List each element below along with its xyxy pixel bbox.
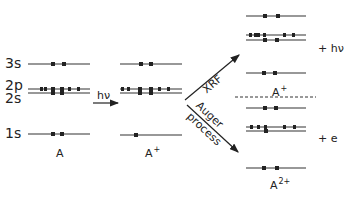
state-aplus-electrons <box>121 62 170 137</box>
state-label-a: A <box>56 145 65 160</box>
state-xrf-levels <box>246 16 306 73</box>
state-label-auger: A2+ <box>270 177 290 192</box>
energy-level-diagram <box>0 0 349 200</box>
state-aplus-levels <box>120 64 182 135</box>
state-a-electrons <box>40 62 80 136</box>
state-auger-levels <box>246 108 306 168</box>
emitted-electron-label: + e <box>318 132 337 145</box>
state-auger-electrons <box>250 106 296 170</box>
state-xrf-electrons <box>249 14 295 75</box>
level-label-1s: 1s <box>5 126 21 140</box>
level-label-2s: 2s <box>5 91 21 105</box>
level-label-3s: 3s <box>5 56 21 70</box>
state-label-xrf: A+ <box>272 84 287 99</box>
photon-label: hν <box>97 89 110 102</box>
emitted-photon-label: + hν <box>318 42 344 55</box>
state-label-aplus: A+ <box>145 145 160 160</box>
state-a-levels <box>28 64 90 134</box>
